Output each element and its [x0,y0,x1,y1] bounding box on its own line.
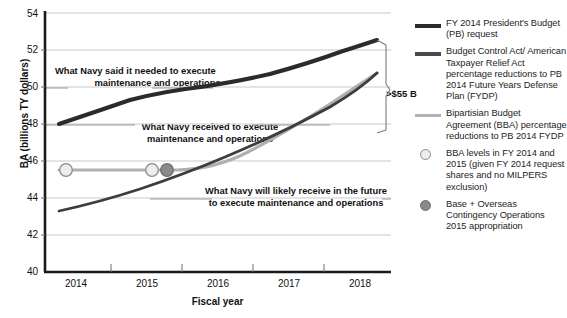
legend-item-bca-atra[interactable]: Budget Control Act/ American Taxpayer Re… [415,46,567,102]
chart-legend: FY 2014 President's Budget (PB) request … [415,10,567,310]
series-bca-atra-line [59,73,377,211]
legend-swatch-line-light-gray [415,108,441,117]
legend-swatch-line-medium-dark [415,46,441,56]
gridlines [45,50,391,235]
legend-swatch-line-thick-dark [415,18,441,28]
series-pb-request-line [59,40,377,124]
marker-bba-2015[interactable] [146,164,159,177]
legend-label-bba: Bipartisian Budget Agreement (BBA) perce… [446,108,567,142]
series-bba-line [59,73,377,170]
legend-label-bba-levels: BBA levels in FY 2014 and 2015 (given FY… [446,148,567,193]
legend-item-bba-levels[interactable]: BBA levels in FY 2014 and 2015 (given FY… [415,148,567,193]
legend-swatch-circle-filled [415,199,441,211]
legend-swatch-circle-open [415,148,441,160]
chart-svg [0,0,412,318]
marker-bba-2014[interactable] [60,164,73,177]
legend-item-base-oco[interactable]: Base + Overseas Contingency Operations 2… [415,199,567,233]
legend-item-pb-request[interactable]: FY 2014 President's Budget (PB) request [415,18,567,40]
chart-figure: BA (billions TY dollars) 54 52 50 48 46 … [0,0,567,318]
legend-label-pb-request: FY 2014 President's Budget (PB) request [446,18,567,40]
legend-label-base-oco: Base + Overseas Contingency Operations 2… [446,199,567,233]
plot-area: BA (billions TY dollars) 54 52 50 48 46 … [0,0,412,318]
marker-base-oco-2015[interactable] [161,164,174,177]
legend-item-bba[interactable]: Bipartisian Budget Agreement (BBA) perce… [415,108,567,142]
legend-label-bca-atra: Budget Control Act/ American Taxpayer Re… [446,46,567,102]
annotation-leader-lines [45,88,391,199]
